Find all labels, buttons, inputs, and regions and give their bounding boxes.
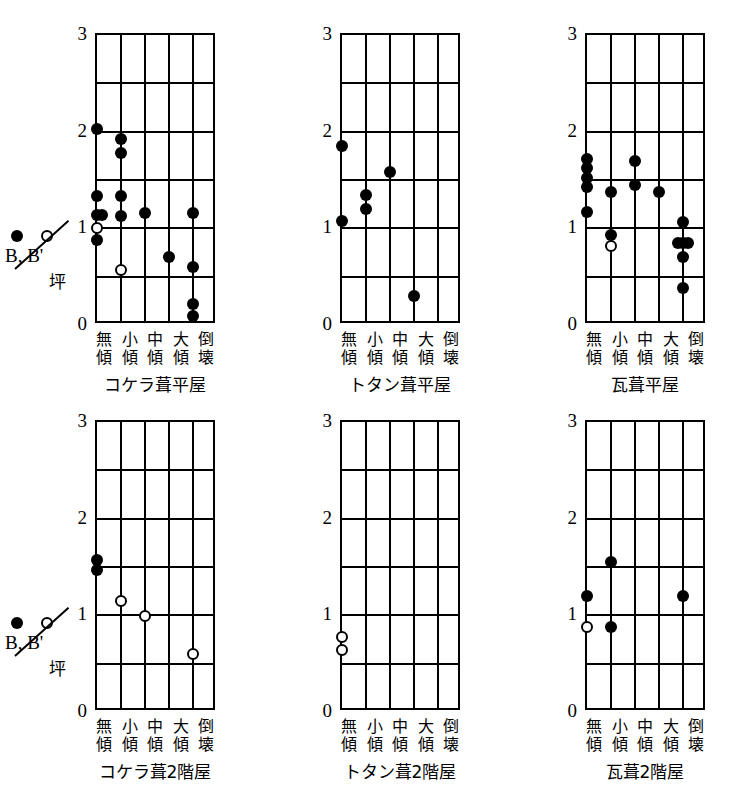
legend: B, B'坪 bbox=[5, 228, 97, 312]
gridline-horizontal bbox=[587, 518, 703, 520]
gridline-vertical bbox=[658, 422, 660, 708]
x-axis-label-5: 倒壊 bbox=[685, 718, 707, 754]
data-point-filled bbox=[677, 590, 689, 602]
data-point-filled bbox=[605, 621, 617, 633]
legend: B, B'坪 bbox=[5, 615, 97, 699]
data-point-open bbox=[581, 621, 593, 633]
x-axis-label-2: 小傾 bbox=[609, 718, 631, 754]
data-point-filled bbox=[605, 556, 617, 568]
gridline-vertical bbox=[634, 422, 636, 708]
panel-title: 瓦葺2階屋 bbox=[545, 762, 745, 782]
legend-filled-circle-icon bbox=[11, 617, 23, 629]
gridline-horizontal bbox=[587, 469, 703, 471]
x-label-bottom: 傾 bbox=[609, 736, 631, 754]
legend-denominator: 坪 bbox=[49, 659, 66, 679]
x-label-top: 大 bbox=[660, 718, 682, 736]
x-axis-labels: 無傾小傾中傾大傾倒壊 bbox=[583, 718, 707, 754]
x-axis-label-1: 無傾 bbox=[583, 718, 605, 754]
gridline-horizontal bbox=[587, 614, 703, 616]
figure-root: 3210無傾小傾中傾大傾倒壊コケラ葺平屋3210無傾小傾中傾大傾倒壊トタン葺平屋… bbox=[0, 0, 747, 800]
gridline-horizontal bbox=[587, 566, 703, 568]
x-label-bottom: 傾 bbox=[634, 736, 656, 754]
legend-filled-circle-icon bbox=[11, 230, 23, 242]
plot-area bbox=[585, 420, 705, 710]
y-axis-tick: 2 bbox=[557, 507, 577, 526]
x-label-bottom: 壊 bbox=[685, 736, 707, 754]
gridline-vertical bbox=[682, 422, 684, 708]
legend-denominator: 坪 bbox=[49, 272, 66, 292]
y-axis-tick: 1 bbox=[557, 604, 577, 623]
y-axis-tick: 0 bbox=[557, 701, 577, 720]
x-label-bottom: 傾 bbox=[660, 736, 682, 754]
x-label-top: 中 bbox=[634, 718, 656, 736]
x-label-top: 倒 bbox=[685, 718, 707, 736]
x-label-top: 無 bbox=[583, 718, 605, 736]
panel-6: 3210無傾小傾中傾大傾倒壊瓦葺2階屋 bbox=[0, 0, 747, 800]
data-point-filled bbox=[581, 590, 593, 602]
x-axis-label-4: 大傾 bbox=[660, 718, 682, 754]
x-axis-label-3: 中傾 bbox=[634, 718, 656, 754]
x-label-bottom: 傾 bbox=[583, 736, 605, 754]
x-label-top: 小 bbox=[609, 718, 631, 736]
gridline-horizontal bbox=[587, 663, 703, 665]
y-axis-tick: 3 bbox=[557, 411, 577, 430]
